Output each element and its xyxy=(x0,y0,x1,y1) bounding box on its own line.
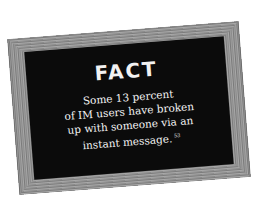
page: FACT Some 13 percent of IM users have br… xyxy=(0,0,256,199)
fact-card: FACT Some 13 percent of IM users have br… xyxy=(7,21,251,195)
chalkboard: FACT Some 13 percent of IM users have br… xyxy=(24,36,233,179)
fact-text: Some 13 percent of IM users have broken … xyxy=(28,82,232,156)
footnote-marker: 53 xyxy=(174,132,181,138)
fact-line-4: instant message. xyxy=(82,132,172,151)
